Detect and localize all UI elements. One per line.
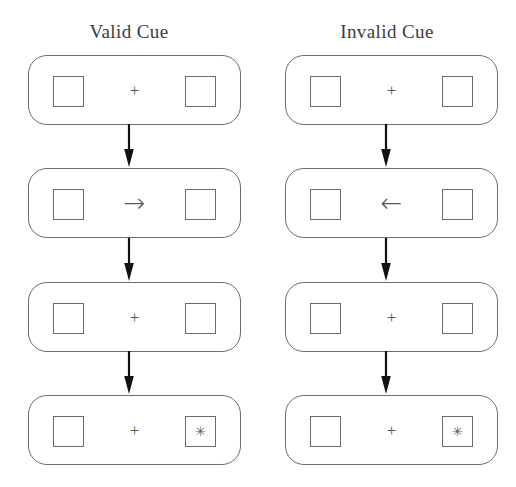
stimulus-box-right-target: ✳ [442, 416, 473, 447]
column-invalid-cue: Invalid Cue + ← [258, 0, 516, 487]
target-asterisk-icon: ✳ [443, 417, 472, 446]
stimulus-box-left [310, 416, 341, 447]
box-mark-left [311, 190, 340, 219]
box-mark-right [443, 77, 472, 106]
target-asterisk-icon: ✳ [186, 417, 215, 446]
flow-arrow-down [122, 351, 136, 395]
stimulus-box-right [442, 189, 473, 220]
box-mark-right [186, 304, 215, 333]
box-mark-left [54, 304, 83, 333]
stimulus-box-right [185, 303, 216, 334]
flow-arrow-down [379, 351, 393, 395]
stimulus-box-right-target: ✳ [185, 416, 216, 447]
panel-valid-target: + ✳ [28, 395, 241, 465]
stimulus-box-left [310, 303, 341, 334]
stimulus-box-right [442, 76, 473, 107]
fixation-cross: + [362, 73, 422, 107]
figure-canvas: Valid Cue + → [0, 0, 516, 487]
cue-arrow-right-icon: → [105, 186, 165, 220]
box-mark-left [311, 417, 340, 446]
column-valid-cue: Valid Cue + → [0, 0, 258, 487]
box-mark-right [443, 304, 472, 333]
stimulus-box-right [185, 189, 216, 220]
stimulus-box-left [53, 76, 84, 107]
stimulus-box-left [53, 303, 84, 334]
stimulus-box-left [53, 189, 84, 220]
box-mark-left [54, 190, 83, 219]
cue-arrow-left-icon: ← [362, 186, 422, 220]
stimulus-box-left [310, 76, 341, 107]
panel-invalid-target: + ✳ [285, 395, 498, 465]
box-mark-left [311, 304, 340, 333]
panel-invalid-fixation-1: + [285, 55, 498, 125]
fixation-cross: + [105, 73, 165, 107]
panel-invalid-fixation-2: + [285, 282, 498, 352]
box-mark-right [443, 190, 472, 219]
panel-valid-fixation-2: + [28, 282, 241, 352]
flow-arrow-down [122, 238, 136, 282]
stimulus-box-left [310, 189, 341, 220]
flow-arrow-down [379, 238, 393, 282]
column-title-invalid-cue: Invalid Cue [258, 21, 516, 43]
stimulus-box-right [185, 76, 216, 107]
panel-valid-cue-arrow: → [28, 168, 241, 238]
stimulus-box-left [53, 416, 84, 447]
stimulus-box-right [442, 303, 473, 334]
box-mark-left [311, 77, 340, 106]
panel-invalid-cue-arrow: ← [285, 168, 498, 238]
box-mark-right [186, 77, 215, 106]
flow-arrow-down [379, 124, 393, 168]
column-title-valid-cue: Valid Cue [0, 21, 258, 43]
panel-valid-fixation-1: + [28, 55, 241, 125]
box-mark-left [54, 77, 83, 106]
flow-arrow-down [122, 124, 136, 168]
fixation-cross: + [362, 300, 422, 334]
box-mark-right [186, 190, 215, 219]
fixation-cross: + [105, 413, 165, 447]
fixation-cross: + [362, 413, 422, 447]
box-mark-left [54, 417, 83, 446]
fixation-cross: + [105, 300, 165, 334]
